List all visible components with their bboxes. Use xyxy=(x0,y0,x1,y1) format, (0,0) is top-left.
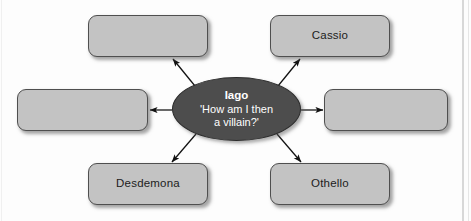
node-box-top-right[interactable]: Cassio xyxy=(270,15,390,57)
arrow-to-bottom-left xyxy=(172,134,196,162)
node-box-mid-left[interactable] xyxy=(17,89,148,131)
node-box-mid-right[interactable] xyxy=(324,89,448,131)
node-label-desdemona: Desdemona xyxy=(116,178,180,190)
node-box-bottom-left[interactable]: Desdemona xyxy=(88,163,208,205)
diagram-page: Cassio Desdemona Othello Iago 'How am I … xyxy=(0,0,471,221)
arrow-to-bottom-right xyxy=(277,134,301,162)
node-box-top-left[interactable] xyxy=(88,15,208,57)
center-title: Iago xyxy=(225,89,249,102)
node-label-cassio: Cassio xyxy=(312,30,348,42)
arrow-to-top-left xyxy=(173,59,195,86)
center-quote: 'How am I then a villain?' xyxy=(200,103,273,129)
center-ellipse-iago[interactable]: Iago 'How am I then a villain?' xyxy=(172,77,301,141)
node-box-bottom-right[interactable]: Othello xyxy=(270,163,390,205)
node-label-othello: Othello xyxy=(311,178,349,190)
arrow-to-top-right xyxy=(278,59,300,86)
